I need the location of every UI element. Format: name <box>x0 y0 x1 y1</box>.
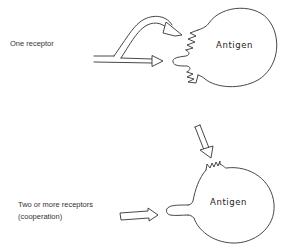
groove-site <box>173 50 190 72</box>
receptor-arrow-horizontal <box>120 208 158 221</box>
panel-multiple-receptors: Two or more receptors (cooperation) Anti… <box>18 125 274 243</box>
multiple-receptors-label-line1: Two or more receptors <box>18 200 93 209</box>
antigen-label-1: Antigen <box>216 40 253 50</box>
antigen-receptor-diagram: One receptor Antigen Two or more recepto… <box>0 0 295 250</box>
groove-site-2 <box>166 205 188 215</box>
zigzag-site-top <box>206 161 220 170</box>
panel-one-receptor: One receptor Antigen <box>10 8 277 86</box>
receptor-arrow-straight <box>94 56 163 67</box>
zigzag-site-lower <box>187 72 198 83</box>
multiple-receptors-label-line2: (cooperation) <box>18 212 63 221</box>
one-receptor-label: One receptor <box>10 39 54 48</box>
antigen-label-2: Antigen <box>210 197 247 207</box>
zigzag-site-upper <box>186 30 198 50</box>
receptor-arrow-diagonal <box>195 125 213 158</box>
receptor-arrow-curved <box>114 16 182 58</box>
antigen-body-2-upper-left <box>188 170 206 205</box>
